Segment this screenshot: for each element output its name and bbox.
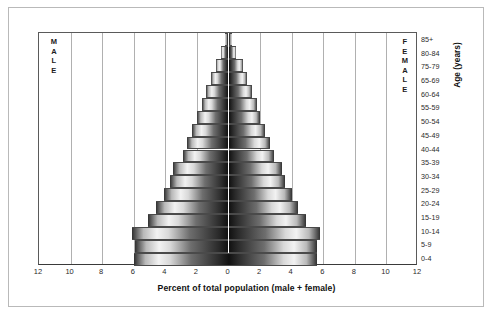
bar-male-40-44 [183, 150, 229, 163]
female-label-letter: E [399, 47, 411, 57]
x-tick-label: 8 [99, 267, 103, 276]
bar-row [39, 46, 416, 59]
bar-row [39, 214, 416, 227]
y-tick-label: 5-9 [421, 240, 431, 249]
y-tick-label: 35-39 [421, 158, 439, 167]
y-tick-label: 75-79 [421, 62, 439, 71]
x-axis-tick-labels: 12108642024681012 [38, 267, 417, 279]
y-tick-label: 55-59 [421, 103, 439, 112]
bar-female-55-59 [229, 111, 261, 124]
bar-row [39, 72, 416, 85]
bar-male-25-29 [164, 188, 229, 201]
bar-female-20-24 [229, 201, 298, 214]
bar-male-5-9 [135, 240, 228, 253]
bar-row [39, 162, 416, 175]
bar-female-30-34 [229, 175, 286, 188]
bar-row [39, 188, 416, 201]
bar-male-80-84 [221, 46, 228, 59]
bar-male-75-79 [216, 59, 229, 72]
bar-female-15-19 [229, 214, 306, 227]
bar-row [39, 124, 416, 137]
bar-row [39, 201, 416, 214]
bar-row [39, 33, 416, 46]
bar-male-70-74 [211, 72, 228, 85]
bar-series-container [39, 33, 416, 264]
female-label-letter: L [399, 75, 411, 85]
y-tick-label: 10-14 [421, 226, 439, 235]
bar-row [39, 111, 416, 124]
female-label-letter: M [399, 56, 411, 66]
x-tick-label: 10 [65, 267, 73, 276]
population-pyramid-figure: MALE FEMALE 12108642024681012 Percent of… [0, 0, 493, 316]
bar-female-25-29 [229, 188, 292, 201]
x-tick-label: 6 [131, 267, 135, 276]
bar-female-65-69 [229, 85, 253, 98]
bar-male-0-4 [134, 253, 229, 266]
y-tick-label: 15-19 [421, 213, 439, 222]
male-label-letter: A [48, 47, 60, 57]
bar-row [39, 240, 416, 253]
bar-female-35-39 [229, 162, 283, 175]
x-tick-label: 12 [34, 267, 42, 276]
x-tick-label: 6 [320, 267, 324, 276]
x-tick-label: 0 [225, 267, 229, 276]
bar-female-80-84 [229, 46, 237, 59]
y-tick-label: 85+ [421, 34, 433, 43]
bar-row [39, 227, 416, 240]
y-tick-label: 45-49 [421, 130, 439, 139]
x-tick-label: 10 [381, 267, 389, 276]
x-tick-label: 8 [352, 267, 356, 276]
bar-female-75-79 [229, 59, 243, 72]
female-label-letter: A [399, 66, 411, 76]
bar-male-55-59 [197, 111, 229, 124]
bar-female-60-64 [229, 98, 257, 111]
bar-female-40-44 [229, 150, 275, 163]
y-tick-label: 50-54 [421, 117, 439, 126]
x-axis-label: Percent of total population (male + fema… [0, 283, 493, 293]
bar-male-30-34 [170, 175, 228, 188]
x-tick-label: 2 [257, 267, 261, 276]
male-side-label: MALE [48, 37, 60, 75]
bar-female-45-49 [229, 137, 270, 150]
y-tick-label: 80-84 [421, 48, 439, 57]
y-axis-label: Age (years) [452, 20, 462, 110]
bar-male-20-24 [156, 201, 229, 214]
female-side-label: FEMALE [399, 37, 411, 95]
bar-row [39, 137, 416, 150]
bar-row [39, 253, 416, 266]
bar-row [39, 85, 416, 98]
male-label-letter: L [48, 56, 60, 66]
x-tick-label: 12 [413, 267, 421, 276]
bar-female-0-4 [229, 253, 317, 266]
bar-female-50-54 [229, 124, 265, 137]
female-label-letter: F [399, 37, 411, 47]
y-tick-label: 25-29 [421, 185, 439, 194]
bar-female-5-9 [229, 240, 317, 253]
y-tick-label: 0-4 [421, 254, 431, 263]
x-tick-label: 4 [289, 267, 293, 276]
y-tick-label: 40-44 [421, 144, 439, 153]
male-label-letter: E [48, 66, 60, 76]
x-tick-label: 4 [162, 267, 166, 276]
bar-row [39, 150, 416, 163]
female-label-letter: E [399, 85, 411, 95]
y-tick-label: 30-34 [421, 171, 439, 180]
x-tick-label: 2 [194, 267, 198, 276]
bar-female-85+ [229, 33, 233, 46]
bar-male-45-49 [187, 137, 228, 150]
y-tick-label: 60-64 [421, 89, 439, 98]
bar-row [39, 59, 416, 72]
bar-row [39, 98, 416, 111]
bar-male-65-69 [206, 85, 228, 98]
y-tick-label: 20-24 [421, 199, 439, 208]
bar-female-10-14 [229, 227, 321, 240]
y-tick-label: 65-69 [421, 75, 439, 84]
bar-female-70-74 [229, 72, 248, 85]
male-label-letter: M [48, 37, 60, 47]
bar-male-60-64 [202, 98, 229, 111]
plot-area [38, 32, 417, 265]
bar-male-10-14 [132, 227, 228, 240]
bar-row [39, 175, 416, 188]
bar-male-35-39 [173, 162, 228, 175]
bar-male-50-54 [192, 124, 228, 137]
